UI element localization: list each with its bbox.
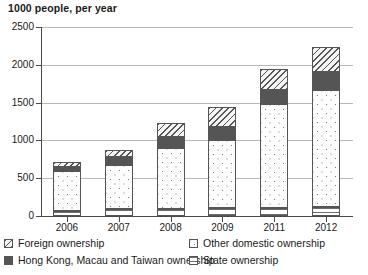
legend-item-label: State ownership bbox=[203, 255, 278, 266]
bar-segment-hong-kong-macau-taiwan-ownership[interactable] bbox=[105, 157, 133, 165]
gridline bbox=[42, 27, 353, 28]
other-domestic-ownership-swatch-icon bbox=[189, 239, 198, 248]
bar-segment-other-domestic-ownership[interactable] bbox=[208, 140, 236, 208]
bar-2009[interactable] bbox=[208, 107, 236, 216]
y-axis-line bbox=[41, 27, 42, 217]
legend-item-label: Hong Kong, Macau and Taiwan ownership bbox=[18, 255, 215, 266]
y-axis-tick-mark bbox=[36, 27, 41, 28]
y-axis-tick-label: 2000 bbox=[12, 60, 34, 70]
bar-segment-state-ownership[interactable] bbox=[157, 209, 185, 216]
gridline bbox=[42, 65, 353, 66]
y-axis-tick-label: 2500 bbox=[12, 22, 34, 32]
x-axis-tick-label: 2009 bbox=[197, 223, 247, 233]
gridline bbox=[42, 140, 353, 141]
chart-title: 1000 people, per year bbox=[8, 2, 117, 14]
bar-segment-state-ownership[interactable] bbox=[105, 209, 133, 216]
bar-2012[interactable] bbox=[312, 47, 340, 216]
bar-segment-foreign-ownership[interactable] bbox=[157, 123, 185, 138]
y-axis-tick-label-wrap: 0 bbox=[0, 211, 34, 221]
state-ownership-swatch-icon bbox=[189, 256, 198, 265]
bar-2006[interactable] bbox=[53, 162, 81, 216]
y-axis-tick-label: 1500 bbox=[12, 98, 34, 108]
bar-segment-state-ownership[interactable] bbox=[260, 208, 288, 216]
legend-item-other-domestic-ownership[interactable]: Other domestic ownership bbox=[189, 238, 325, 249]
bar-segment-hong-kong-macau-taiwan-ownership[interactable] bbox=[208, 127, 236, 140]
gridline bbox=[42, 103, 353, 104]
legend-item-label: Other domestic ownership bbox=[203, 238, 325, 249]
foreign-ownership-swatch-icon bbox=[4, 239, 13, 248]
legend-item-foreign-ownership[interactable]: Foreign ownership bbox=[4, 238, 104, 249]
bar-segment-state-ownership[interactable] bbox=[312, 207, 340, 216]
y-axis-tick-label: 0 bbox=[28, 211, 34, 221]
bar-segment-foreign-ownership[interactable] bbox=[312, 47, 340, 72]
x-axis-tick-label: 2007 bbox=[94, 223, 144, 233]
y-axis-tick-mark bbox=[36, 140, 41, 141]
y-axis-tick-label-wrap: 1000 bbox=[0, 135, 34, 145]
bar-segment-state-ownership[interactable] bbox=[53, 211, 81, 216]
bar-2008[interactable] bbox=[157, 123, 185, 216]
bar-segment-hong-kong-macau-taiwan-ownership[interactable] bbox=[260, 90, 288, 104]
hong-kong-macau-taiwan-ownership-swatch-icon bbox=[4, 256, 13, 265]
bar-segment-other-domestic-ownership[interactable] bbox=[53, 171, 81, 212]
bar-segment-hong-kong-macau-taiwan-ownership[interactable] bbox=[53, 167, 81, 171]
legend-item-label: Foreign ownership bbox=[18, 238, 104, 249]
bar-segment-foreign-ownership[interactable] bbox=[208, 107, 236, 127]
stacked-bar-chart: 1000 people, per year 050010001500200025… bbox=[0, 0, 368, 275]
y-axis-tick-mark bbox=[36, 178, 41, 179]
bar-segment-other-domestic-ownership[interactable] bbox=[105, 165, 133, 210]
x-axis-tick-label: 2006 bbox=[42, 223, 92, 233]
y-axis-tick-label-wrap: 1500 bbox=[0, 98, 34, 108]
x-axis-tick-label: 2011 bbox=[249, 223, 299, 233]
legend-item-hong-kong-macau-taiwan-ownership[interactable]: Hong Kong, Macau and Taiwan ownership bbox=[4, 255, 215, 266]
y-axis-tick-label: 1000 bbox=[12, 135, 34, 145]
y-axis-tick-label: 500 bbox=[17, 173, 34, 183]
bar-segment-other-domestic-ownership[interactable] bbox=[312, 90, 340, 208]
bar-segment-foreign-ownership[interactable] bbox=[53, 162, 81, 167]
bar-segment-other-domestic-ownership[interactable] bbox=[157, 148, 185, 208]
y-axis-tick-label-wrap: 2500 bbox=[0, 22, 34, 32]
bar-segment-hong-kong-macau-taiwan-ownership[interactable] bbox=[157, 137, 185, 148]
bar-segment-foreign-ownership[interactable] bbox=[260, 69, 288, 90]
y-axis-tick-label-wrap: 2000 bbox=[0, 60, 34, 70]
bar-segment-hong-kong-macau-taiwan-ownership[interactable] bbox=[312, 72, 340, 90]
x-axis-line bbox=[41, 216, 353, 217]
plot-area: 05001000150020002500 2006200720082009201… bbox=[41, 27, 352, 216]
bar-segment-state-ownership[interactable] bbox=[208, 208, 236, 216]
bar-2011[interactable] bbox=[260, 69, 288, 216]
y-axis-tick-mark bbox=[36, 65, 41, 66]
x-axis-tick-label: 2008 bbox=[146, 223, 196, 233]
gridline bbox=[42, 178, 353, 179]
y-axis-tick-label-wrap: 500 bbox=[0, 173, 34, 183]
legend-item-state-ownership[interactable]: State ownership bbox=[189, 255, 278, 266]
bar-segment-foreign-ownership[interactable] bbox=[105, 150, 133, 157]
x-axis-tick-label: 2012 bbox=[301, 223, 351, 233]
y-axis-tick-mark bbox=[36, 216, 41, 217]
bar-2007[interactable] bbox=[105, 150, 133, 216]
chart-legend: Foreign ownership Hong Kong, Macau and T… bbox=[4, 238, 364, 272]
bar-segment-other-domestic-ownership[interactable] bbox=[260, 104, 288, 208]
y-axis-tick-mark bbox=[36, 103, 41, 104]
